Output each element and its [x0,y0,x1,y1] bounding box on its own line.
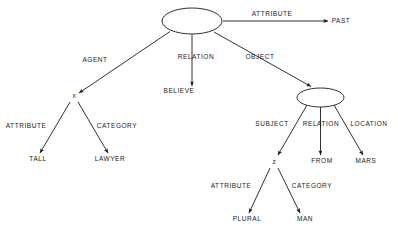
node-label-from: FROM [311,157,332,164]
node-label-past: PAST [332,17,351,24]
node-root-ellipse[interactable] [162,8,222,34]
diagram-canvas: x z PAST BELIEVE TALL LAWYER FROM MARS P… [0,0,398,234]
edge-label-category-lawyer: CATEGORY [97,122,137,129]
node-label-mars: MARS [356,157,377,164]
edge-label-attribute-plural: ATTRIBUTE [211,182,252,189]
semantic-network-diagram: x z PAST BELIEVE TALL LAWYER FROM MARS P… [0,0,398,234]
edge-z-to-plural [249,168,270,213]
edge-label-relation-believe: RELATION [178,53,214,60]
edge-label-agent: AGENT [82,56,107,63]
node-object-ellipse[interactable] [297,88,344,107]
node-label-plural: PLURAL [233,215,262,222]
edge-label-location: LOCATION [350,120,387,127]
edge-label-object: OBJECT [246,53,275,60]
node-label-tall: TALL [29,155,46,162]
edge-label-attribute-past: ATTRIBUTE [252,10,293,17]
edge-object-to-mars [334,105,363,155]
node-label-believe: BELIEVE [164,87,195,94]
edge-label-relation-from: RELATION [303,120,339,127]
node-label-lawyer: LAWYER [95,155,126,162]
edge-label-subject: SUBJECT [255,120,288,127]
node-label-x: x [72,92,76,99]
edge-z-to-man [278,168,300,213]
edge-label-category-man: CATEGORY [292,182,332,189]
node-label-z: z [272,158,275,165]
edge-object-to-z [278,105,307,155]
node-label-man: MAN [297,215,313,222]
edge-label-attribute-tall: ATTRIBUTE [6,122,47,129]
